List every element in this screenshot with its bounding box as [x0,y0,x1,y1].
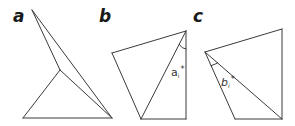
edge-line [23,70,60,118]
edge-line [112,31,186,53]
panel-label-c: c [193,6,203,26]
panel-a: a [13,6,112,118]
panel-label-a: a [13,6,24,26]
panel-c: cbi* [193,6,282,119]
panel-label-b: b [99,6,111,26]
angle-label-c: bi* [221,75,235,89]
edge-line [205,52,282,119]
panel-b: bai* [99,6,186,119]
edge-line [32,10,60,70]
angle-arc [211,63,217,66]
geometry-diagram: a bai* cbi* [0,0,295,126]
edge-line [32,10,112,118]
angle-label-b: ai* [171,65,184,79]
angle-arc [179,44,186,49]
edge-line [112,53,141,119]
edge-line [60,70,112,118]
edge-line [205,52,235,119]
edge-line [205,29,282,52]
